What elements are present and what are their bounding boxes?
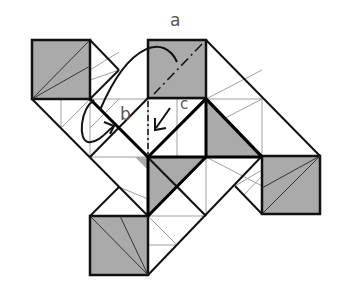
label-c: c	[180, 97, 188, 112]
arrow-b-head	[104, 122, 114, 134]
origami-diagram	[0, 0, 348, 296]
label-a: a	[170, 12, 180, 29]
left-small-triangle	[135, 157, 148, 170]
label-b: b	[120, 106, 131, 123]
arrow-c-shaft	[156, 108, 170, 128]
